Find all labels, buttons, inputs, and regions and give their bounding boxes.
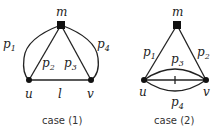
label-p1: p1 — [3, 37, 16, 53]
node-v — [88, 77, 94, 83]
node-u — [141, 77, 147, 83]
label-p2: p2 — [42, 56, 55, 72]
node-m-square — [57, 21, 65, 29]
node-u — [26, 77, 32, 83]
label-m: m — [172, 5, 183, 19]
diagram-canvas: m p1 p2 p3 p4 u l v case (1) m p1 p2 p3 … — [0, 0, 221, 131]
label-u: u — [139, 85, 147, 99]
edge-p4 — [61, 25, 98, 80]
label-p2: p2 — [197, 45, 210, 61]
label-v: v — [203, 85, 210, 99]
edge-p1 — [24, 25, 61, 80]
label-v: v — [87, 87, 94, 101]
caption-case-2: case (2) — [154, 115, 194, 126]
label-p4: p4 — [97, 37, 110, 53]
label-m: m — [56, 5, 67, 19]
node-m-square — [173, 21, 181, 29]
case-1-graph — [24, 25, 99, 80]
label-l: l — [58, 87, 62, 101]
label-p3: p3 — [171, 52, 184, 68]
label-u: u — [25, 87, 33, 101]
caption-case-1: case (1) — [42, 115, 82, 126]
edge-p2 — [29, 25, 61, 80]
label-p3: p3 — [64, 56, 77, 72]
label-p4: p4 — [171, 95, 184, 111]
label-p1: p1 — [143, 45, 156, 61]
node-v — [203, 77, 209, 83]
